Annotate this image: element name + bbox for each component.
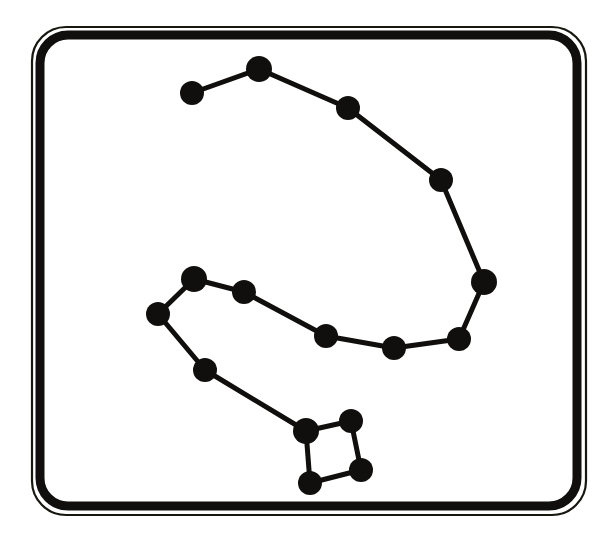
- star-node-star-9: [232, 280, 256, 304]
- constellation-plaque: [0, 0, 611, 537]
- star-node-star-13: [293, 418, 319, 444]
- star-node-star-14: [339, 409, 363, 433]
- star-node-star-1: [180, 81, 204, 105]
- star-node-star-16: [298, 471, 322, 495]
- star-node-star-4: [429, 168, 453, 192]
- star-node-star-7: [382, 336, 406, 360]
- star-node-star-11: [146, 302, 170, 326]
- star-node-star-5: [471, 269, 497, 295]
- star-node-star-12: [193, 358, 217, 382]
- star-node-star-10: [181, 266, 207, 292]
- star-node-star-3: [336, 96, 360, 120]
- star-node-star-8: [314, 324, 338, 348]
- star-node-star-15: [349, 458, 373, 482]
- star-node-star-2: [246, 56, 272, 82]
- star-node-star-6: [447, 327, 471, 351]
- constellation-diagram: [0, 0, 611, 537]
